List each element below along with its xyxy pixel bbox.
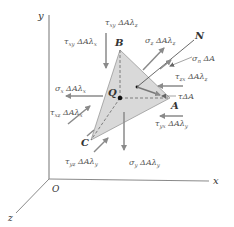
point-N-label: N (194, 30, 205, 41)
z-axis (16, 179, 49, 213)
point-Q-dot (118, 96, 123, 101)
point-A-label: A (170, 100, 179, 111)
sigma-x-label: σx ΔAλx (55, 84, 87, 94)
z-axis-label: z (7, 213, 13, 223)
tau-xz-label: τxz ΔAλx (50, 108, 84, 118)
tau-xy-label-left: τxy ΔAλx (64, 37, 98, 48)
point-B-label: B (114, 37, 123, 48)
tau-zx-label: τzx ΔAλz (175, 72, 208, 82)
point-Q-label: Q (108, 87, 117, 98)
tau-xy-label-top: τxy ΔAλz (105, 18, 138, 29)
sigma-n-pointer (170, 57, 192, 66)
sigma-n-arrow (160, 60, 171, 69)
stress-tetrahedron-diagram: y x z O B A C Q N (0, 0, 234, 227)
tau-yz-label: τyz ΔAλy (65, 157, 99, 168)
y-axis-label: y (37, 10, 44, 21)
x-axis-label: x (213, 175, 219, 186)
tau-yx-label: τyx ΔAλy (155, 119, 189, 130)
sigma-z-label: σz ΔAλz (145, 36, 176, 46)
sigma-z-arrow (143, 48, 164, 70)
origin-label: O (52, 184, 60, 194)
sigma-y-label: σy ΔAλy (129, 158, 161, 169)
tau-yz-arrow (94, 138, 108, 152)
point-C-label: C (81, 137, 89, 148)
tau-resultant-label: τΔA (178, 92, 194, 101)
x-axis (49, 179, 209, 181)
sigma-n-label: σn ΔA (192, 54, 215, 64)
